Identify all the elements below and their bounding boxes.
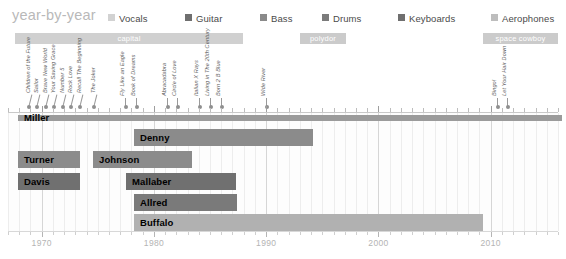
bottom-axis-tick [468, 232, 469, 235]
top-axis-tick [491, 106, 492, 112]
record-label-bar-space-cowboy[interactable]: space cowboy [483, 33, 558, 44]
legend-item-vocals[interactable]: Vocals [108, 9, 148, 23]
timeline-bar-denny[interactable]: Denny [134, 129, 313, 146]
member-name: Turner [24, 151, 54, 168]
album-title: Let Your Hair Down [501, 46, 507, 97]
top-axis-tick [143, 108, 144, 112]
axis-tick-label: 1970 [32, 238, 52, 248]
top-axis-tick [19, 108, 20, 112]
timeline-bar-miller[interactable]: Miller [18, 115, 562, 121]
bottom-axis-tick [75, 232, 76, 235]
bottom-axis-tick [210, 232, 211, 235]
bottom-axis-tick [345, 232, 346, 235]
chart-header: year-by-year VocalsGuitarBassDrumsKeyboa… [0, 6, 566, 26]
gridline [8, 113, 9, 231]
record-label-bar-polydor[interactable]: polydor [300, 33, 346, 44]
timeline-bar-buffalo[interactable]: Buffalo [134, 214, 483, 231]
timeline-bar-mallaber[interactable]: Mallaber [126, 173, 236, 190]
gridline [109, 113, 110, 231]
top-axis-tick [412, 108, 413, 112]
axis-tick-label: 2000 [368, 238, 388, 248]
bottom-axis-tick [64, 232, 65, 235]
album-title: Brave New World [42, 48, 48, 94]
album-title: Your Saving Grace [50, 44, 56, 94]
bottom-axis-tick [98, 232, 99, 235]
bottom-axis-tick [367, 232, 368, 235]
bottom-axis-tick [491, 232, 492, 237]
top-axis-tick [75, 108, 76, 112]
bottom-axis-tick [143, 232, 144, 235]
bottom-axis-tick [266, 232, 267, 237]
bottom-axis-line [8, 231, 558, 232]
gridline [75, 113, 76, 231]
gridline [491, 113, 492, 231]
bottom-axis-tick [356, 232, 357, 235]
bottom-axis-tick [131, 232, 132, 235]
legend-item-guitar[interactable]: Guitar [185, 9, 222, 23]
bottom-axis-tick [199, 232, 200, 235]
bottom-axis-tick [457, 232, 458, 235]
bottom-axis-tick [232, 232, 233, 235]
timeline-bar-turner[interactable]: Turner [18, 151, 80, 168]
legend-item-keyboards[interactable]: Keyboards [398, 9, 455, 23]
member-name: Mallaber [132, 173, 171, 190]
legend-item-aerophones[interactable]: Aerophones [491, 9, 554, 23]
top-axis-tick [367, 108, 368, 112]
timeline-bar-johnson[interactable]: Johnson [93, 151, 192, 168]
legend-item-bass[interactable]: Bass [260, 9, 293, 23]
legend-swatch-icon [260, 14, 267, 21]
bottom-axis-tick [19, 232, 20, 235]
top-axis-tick [266, 106, 267, 112]
bottom-axis: 19701980199020002010 [8, 231, 558, 253]
timeline-bar-davis[interactable]: Davis [18, 173, 80, 190]
bottom-axis-tick [53, 232, 54, 235]
bottom-axis-tick [446, 232, 447, 235]
album-title: Rock Love [67, 66, 73, 94]
top-axis-tick [446, 108, 447, 112]
legend-label: Aerophones [502, 13, 554, 24]
top-axis-tick [536, 108, 537, 112]
bottom-axis-tick [42, 232, 43, 237]
top-axis-tick [277, 108, 278, 112]
bottom-axis-tick [502, 232, 503, 235]
bottom-axis-tick [423, 232, 424, 235]
bottom-axis-tick [188, 232, 189, 235]
top-axis-tick [165, 108, 166, 112]
album-title: Sailor [33, 78, 39, 94]
album-title: Number 5 [59, 68, 65, 94]
top-axis-tick [524, 108, 525, 112]
member-name: Buffalo [140, 214, 173, 231]
axis-tick-label: 1980 [144, 238, 164, 248]
top-axis-tick [188, 108, 189, 112]
album-title: Italian X Rays [193, 60, 199, 97]
top-axis-tick [435, 108, 436, 112]
gridline [53, 113, 54, 231]
top-axis-tick [401, 108, 402, 112]
top-axis-tick [502, 108, 503, 112]
plot-area: MillerDennyTurnerJohnsonDavisMallaberAll… [8, 113, 558, 231]
legend-label: Drums [333, 13, 361, 24]
top-axis-tick [390, 108, 391, 112]
gridline [513, 113, 514, 231]
top-axis-tick [8, 108, 9, 112]
timeline-bar-allred[interactable]: Allred [134, 194, 237, 211]
gridline [98, 113, 99, 231]
bottom-axis-tick [30, 232, 31, 235]
axis-tick-label: 1990 [256, 238, 276, 248]
album-title: Wide River [260, 68, 266, 97]
album-title: Abracadabra [161, 63, 167, 97]
record-label-text: space cowboy [483, 33, 558, 44]
album-title: Recall The Beginning [76, 38, 82, 94]
top-axis-tick [232, 108, 233, 112]
bottom-axis-tick [435, 232, 436, 235]
bottom-axis-tick [109, 232, 110, 235]
gridline [547, 113, 548, 231]
top-axis-tick [423, 108, 424, 112]
top-axis-tick [311, 108, 312, 112]
gridline [64, 113, 65, 231]
top-axis-tick [322, 108, 323, 112]
legend-item-drums[interactable]: Drums [322, 9, 361, 23]
legend-swatch-icon [185, 14, 192, 21]
gridline [558, 113, 559, 231]
top-axis-tick [98, 108, 99, 112]
